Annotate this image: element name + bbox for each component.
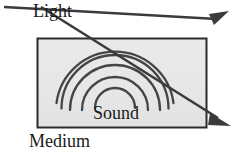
light-ray-down-arrowhead: [208, 113, 231, 126]
physics-diagram: Light Sound Medium: [0, 0, 242, 156]
label-medium: Medium: [29, 132, 90, 150]
light-ray-up-arrowhead: [209, 11, 229, 25]
label-light: Light: [33, 2, 72, 20]
label-sound: Sound: [93, 104, 139, 122]
